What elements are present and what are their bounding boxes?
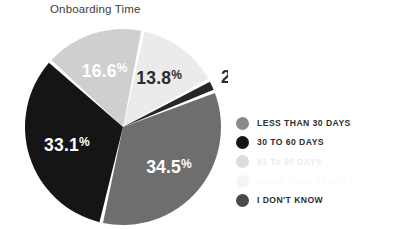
pie-slice-percent-sign: % <box>79 135 90 149</box>
pie-svg: 16.6%13.8%2%34.5%33.1% <box>20 28 228 226</box>
legend-swatch-icon <box>236 194 249 207</box>
legend-item-label: 30 TO 60 DAYS <box>257 138 324 147</box>
legend-swatch-icon <box>236 155 249 168</box>
legend-item[interactable]: LESS THAN 30 DAYS <box>236 114 393 133</box>
pie-slice-value: 13.8 <box>136 68 171 88</box>
pie-slice-percent-sign: % <box>181 157 192 171</box>
chart-title: Onboarding Time <box>50 3 140 15</box>
legend-item-label: LESS THAN 30 DAYS <box>257 119 351 128</box>
pie-slice-value: 34.5 <box>146 157 181 177</box>
pie-slice-label: 2% <box>221 67 228 87</box>
pie-slice-percent-sign: % <box>171 68 182 82</box>
legend-swatch-icon <box>236 136 249 149</box>
pie-slice-value: 2 <box>221 67 228 87</box>
legend-item-label: MORE THAN 91 DAYS <box>257 177 354 186</box>
legend-item[interactable]: 30 TO 60 DAYS <box>236 133 393 152</box>
legend-item-label: 61 To 90 DAYS <box>257 158 322 167</box>
pie-slice-percent-sign: % <box>117 61 128 75</box>
pie-chart-area: 16.6%13.8%2%34.5%33.1% <box>20 28 228 226</box>
legend-item[interactable]: I DON'T KNOW <box>236 191 393 210</box>
pie-slice-group <box>25 29 221 225</box>
legend-swatch-icon <box>236 175 249 188</box>
legend-swatch-icon <box>236 117 249 130</box>
pie-chart-figure: Onboarding Time 16.6%13.8%2%34.5%33.1% L… <box>0 0 393 229</box>
legend-item[interactable]: 61 To 90 DAYS <box>236 152 393 171</box>
pie-slice-value: 16.6 <box>82 61 117 81</box>
legend-item[interactable]: MORE THAN 91 DAYS <box>236 172 393 191</box>
legend: LESS THAN 30 DAYS30 TO 60 DAYS61 To 90 D… <box>236 114 393 210</box>
legend-item-label: I DON'T KNOW <box>257 196 323 205</box>
pie-slice-value: 33.1 <box>44 135 79 155</box>
